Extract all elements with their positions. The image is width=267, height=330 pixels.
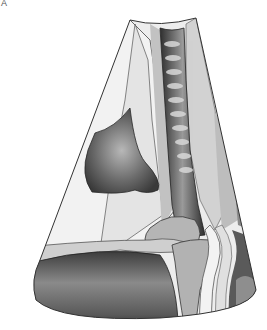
sector-content	[0, 0, 267, 330]
ultrasound-sector-diagram	[0, 0, 267, 330]
